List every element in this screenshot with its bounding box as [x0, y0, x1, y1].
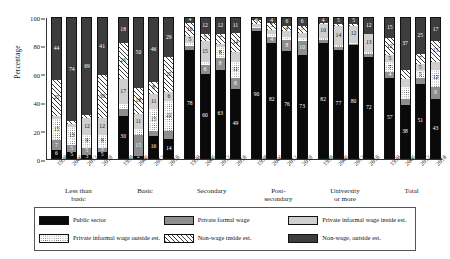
- bar-post-secondary-2006[interactable]: 45482: [266, 17, 277, 159]
- segment-nonwage_in: 7: [215, 34, 226, 44]
- segment-privinf_out: 15: [51, 119, 62, 141]
- bar-less-than-basic-2006[interactable]: 741355: [66, 17, 77, 159]
- segment-public: 73: [297, 55, 308, 159]
- segment-value: 13: [69, 133, 75, 139]
- segment-privinf_in: 14: [333, 26, 344, 46]
- segment-value: 14: [336, 33, 342, 39]
- segment-value: 5: [388, 56, 391, 62]
- segment-privformal: 5: [81, 148, 92, 155]
- segment-value: 14: [233, 40, 239, 46]
- segment-value: 74: [69, 67, 75, 73]
- segment-privinf_in: [230, 52, 241, 62]
- bar-total-2012[interactable]: 2575551: [415, 17, 426, 159]
- segment-public: 43: [430, 99, 441, 159]
- bar-less-than-basic-2012[interactable]: 6912953: [81, 17, 92, 159]
- bar-university-or-more-2006[interactable]: 51477: [333, 17, 344, 159]
- segment-value: 3: [255, 20, 258, 24]
- segment-nonwage_out: 12: [200, 17, 211, 34]
- segment-privinf_in: 13: [363, 34, 374, 52]
- bar-university-or-more-2018[interactable]: 121372: [363, 17, 374, 159]
- segment-privinf_in: 12: [348, 26, 359, 43]
- segment-privinf_out: [400, 87, 411, 100]
- segment-value: 76: [284, 102, 290, 108]
- segment-nonwage_in: [400, 70, 411, 80]
- segment-value: 5: [70, 146, 73, 152]
- bar-basic-2018[interactable]: 292562214: [163, 17, 174, 159]
- segment-privformal: 7: [51, 140, 62, 150]
- bar-total-2018[interactable]: 171512943: [430, 17, 441, 159]
- bar-basic-2012[interactable]: 468111516: [148, 17, 159, 159]
- group-label-secondary: Secondary: [175, 188, 248, 196]
- legend-item-nonwage_out: Non-wage, outside est.: [288, 229, 411, 247]
- bar-basic-2006[interactable]: 501811152: [133, 17, 144, 159]
- segment-value: 15: [151, 117, 157, 123]
- segment-value: 37: [402, 41, 408, 47]
- group-label-university-or-more: Universityor more: [309, 188, 382, 203]
- segment-value: 73: [299, 104, 305, 110]
- segment-value: 9: [101, 138, 104, 144]
- segment-privformal: 8: [230, 78, 241, 89]
- segment-value: 4: [322, 18, 325, 23]
- segment-value: 29: [166, 35, 172, 41]
- segment-privformal: 5: [66, 145, 77, 152]
- segment-value: 57: [387, 115, 393, 121]
- legend-label-public: Public sector: [73, 216, 106, 223]
- segment-value: 25: [417, 33, 423, 39]
- bar-secondary-2006[interactable]: 12515660: [200, 17, 211, 159]
- segment-value: 43: [433, 126, 439, 132]
- segment-public: 57: [384, 78, 395, 159]
- segment-nonwage_out: 6: [281, 17, 292, 26]
- bar-post-secondary-2012[interactable]: 64876: [281, 17, 292, 159]
- segment-privinf_in: [400, 79, 411, 86]
- segment-value: 60: [202, 113, 208, 119]
- y-tick-80: 80: [33, 43, 40, 50]
- bar-post-secondary-2018[interactable]: 651073: [297, 17, 308, 159]
- segment-value: 82: [269, 97, 275, 103]
- segment-value: 14: [166, 146, 172, 152]
- segment-value: 30: [120, 134, 126, 140]
- segment-nonwage_out: 69: [81, 17, 92, 115]
- segment-value: 4: [388, 72, 391, 78]
- segment-value: 5: [101, 152, 104, 158]
- segment-nonwage_in: 14: [230, 33, 241, 53]
- bar-total-2006[interactable]: 3738: [400, 17, 411, 159]
- bar-secondary-2012[interactable]: 1278863: [215, 17, 226, 159]
- segment-value: 5: [204, 35, 207, 41]
- segment-value: 7: [388, 65, 391, 71]
- segment-privformal: 10: [297, 41, 308, 55]
- segment-value: 6: [301, 19, 304, 25]
- segment-value: 78: [187, 101, 193, 107]
- bar-total-1998[interactable]: 151257457: [384, 17, 395, 159]
- segment-value: 5: [188, 37, 191, 43]
- bar-less-than-basic-2018[interactable]: 413012935: [97, 17, 108, 159]
- bar-secondary-1998[interactable]: 410578: [184, 17, 195, 159]
- bar-post-secondary-1998[interactable]: 2390: [251, 17, 262, 159]
- y-tick-20: 20: [33, 128, 40, 135]
- segment-value: 4: [286, 26, 289, 32]
- segment-value: 5: [419, 65, 422, 71]
- legend-label-privinf_out: Private informal wage outside est.: [73, 234, 160, 241]
- segment-nonwage_in: 26: [118, 43, 129, 80]
- bar-secondary-2018[interactable]: 111411849: [230, 17, 241, 159]
- group-label-post-secondary: Post-secondary: [242, 188, 315, 203]
- segment-privformal: 9: [430, 87, 441, 100]
- legend-swatch-privinf_in: [288, 216, 318, 225]
- legend-swatch-privinf_out: [39, 234, 69, 243]
- bar-university-or-more-2012[interactable]: 51280: [348, 17, 359, 159]
- legend-item-public: Public sector: [39, 211, 162, 229]
- segment-value: 8: [219, 50, 222, 56]
- segment-public: 90: [251, 31, 262, 159]
- bar-less-than-basic-1998[interactable]: 44251576: [51, 17, 62, 159]
- group-label-line: Total: [375, 188, 448, 196]
- segment-nonwage_out: 5: [333, 17, 344, 24]
- bar-basic-1998[interactable]: 18261730: [118, 17, 129, 159]
- segment-value: 4: [270, 37, 273, 43]
- legend-label-nonwage_out: Non-wage, outside est.: [322, 234, 381, 241]
- segment-value: 13: [366, 40, 372, 46]
- segment-privinf_in: 10: [318, 24, 329, 38]
- segment-privinf_out: 7: [384, 62, 395, 72]
- y-tick-40: 40: [33, 100, 40, 107]
- y-tick-0: 0: [37, 157, 40, 164]
- segment-privinf_out: 13: [66, 127, 77, 145]
- bar-university-or-more-1998[interactable]: 41082: [318, 17, 329, 159]
